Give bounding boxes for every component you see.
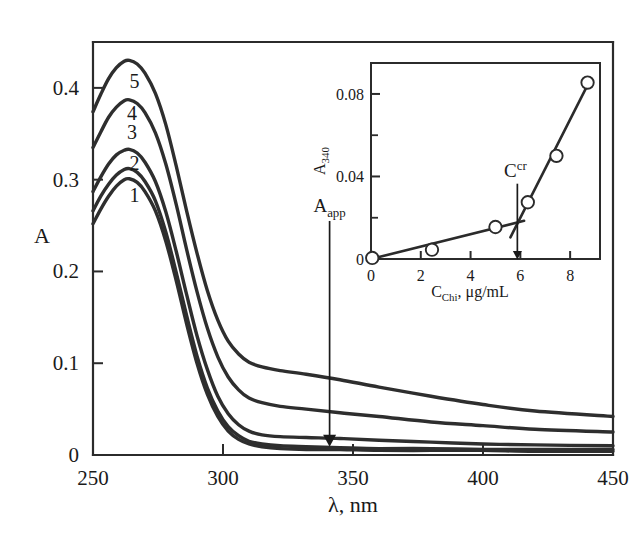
inset-x-tick-label: 0 [367, 267, 375, 284]
inset-data-point [366, 252, 378, 264]
inset-x-title-rest: , μg/mL [458, 283, 509, 301]
curve-label-3: 3 [127, 121, 137, 143]
inset-data-point [489, 221, 501, 233]
inset-x-axis-title: CChi, μg/mL [431, 283, 509, 303]
curve-label-1: 1 [130, 184, 140, 206]
inset-data-point [426, 244, 438, 256]
figure-canvas: 00.10.20.30.4 250300350400450 12345 Aapp… [0, 0, 634, 536]
inset-data-point [522, 196, 534, 208]
inset-x-tick-labels: 02468 [367, 267, 574, 284]
inset-data-point [581, 76, 593, 88]
inset-x-tick-label: 2 [417, 267, 425, 284]
main-x-tick-label: 350 [337, 466, 369, 490]
c-critical-label-sup: cr [517, 158, 528, 173]
main-y-tick-label: 0.4 [53, 76, 80, 100]
curve-label-5: 5 [130, 70, 140, 92]
inset-data-point [550, 150, 562, 162]
inset-x-title-sub: Chi [442, 291, 458, 303]
main-x-tick-label: 450 [597, 466, 629, 490]
curve-label-2: 2 [130, 152, 140, 174]
inset-y-tick-label: 0 [356, 251, 364, 268]
inset-y-tick-label: 0.08 [336, 86, 364, 103]
main-y-tick-label: 0.3 [53, 168, 79, 192]
main-x-tick-label: 300 [207, 466, 239, 490]
a-app-label-sub: app [327, 205, 346, 220]
main-y-tick-label: 0.2 [53, 259, 79, 283]
main-x-tick-labels: 250300350400450 [77, 466, 629, 490]
inset-plot: 00.040.08 02468 Ccr A340 CChi, μg/mL [311, 63, 600, 303]
main-x-tick-label: 250 [77, 466, 109, 490]
inset-x-title-base: C [431, 283, 442, 300]
a-app-label: Aapp [313, 195, 345, 220]
inset-y-tick-label: 0.04 [336, 168, 364, 185]
inset-y-axis-title: A340 [311, 147, 331, 175]
spectra-figure: 00.10.20.30.4 250300350400450 12345 Aapp… [0, 0, 634, 536]
inset-y-tick-labels: 00.040.08 [336, 86, 364, 268]
spectral-curve-labels: 12345 [127, 70, 140, 207]
inset-x-tick-label: 8 [566, 267, 574, 284]
c-critical-label-base: C [504, 160, 517, 181]
a-app-arrow-head [323, 435, 336, 447]
inset-y-title-base: A [311, 163, 328, 175]
inset-x-tick-label: 4 [467, 267, 475, 284]
inset-x-tick-label: 6 [516, 267, 524, 284]
main-y-axis-title: A [34, 223, 50, 248]
main-y-tick-label: 0 [69, 443, 80, 467]
inset-y-title-sub: 340 [319, 147, 331, 164]
main-y-tick-label: 0.1 [53, 351, 79, 375]
a-app-label-base: A [313, 195, 327, 216]
curve-label-4: 4 [127, 102, 137, 124]
main-x-axis-title: λ, nm [328, 492, 378, 517]
main-x-tick-label: 400 [467, 466, 499, 490]
main-y-tick-labels: 00.10.20.30.4 [53, 76, 80, 467]
